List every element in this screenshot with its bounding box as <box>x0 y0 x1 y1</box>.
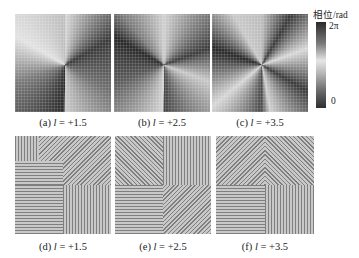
metasurface-pattern-e <box>115 136 211 234</box>
caption-e: (e) l = +2.5 <box>120 241 206 252</box>
colorbar-min-label: 0 <box>331 96 336 106</box>
phase-map-c <box>212 14 308 112</box>
metasurface-pattern-f <box>216 136 314 234</box>
caption-b: (b) l = +2.5 <box>119 117 205 128</box>
colorbar-max-label: 2π <box>329 21 339 31</box>
colorbar-title: 相位/rad <box>313 7 348 21</box>
caption-a: (a) l = +1.5 <box>20 117 106 128</box>
metasurface-pattern-d <box>15 136 111 234</box>
caption-c: (c) l = +3.5 <box>217 117 303 128</box>
caption-d: (d) l = +1.5 <box>20 241 106 252</box>
colorbar <box>316 22 326 108</box>
phase-map-b <box>114 14 210 112</box>
caption-f: (f) l = +3.5 <box>222 241 308 252</box>
phase-map-a <box>15 14 111 112</box>
